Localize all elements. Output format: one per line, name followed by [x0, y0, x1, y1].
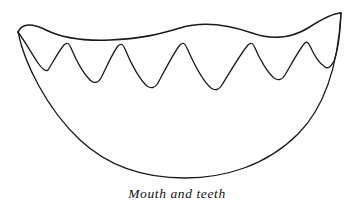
mouth-and-teeth-illustration	[0, 0, 354, 208]
figure-container: Mouth and teeth	[0, 0, 354, 208]
figure-caption: Mouth and teeth	[0, 186, 354, 202]
